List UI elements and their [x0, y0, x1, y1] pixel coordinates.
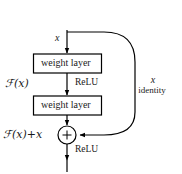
residual-block-figure: x weight layer weight layer ℱ(x) ReLU ℱ(…	[0, 0, 182, 174]
function-output-label: ℱ(x)	[5, 78, 29, 89]
input-variable-label: x	[55, 33, 59, 43]
weight-layer-2-label: weight layer	[41, 100, 91, 110]
shortcut-variable-label: x	[132, 75, 174, 85]
residual-sum-label: ℱ(x)+x	[3, 129, 42, 140]
shortcut-identity-label: identity	[126, 86, 178, 95]
relu-mid-label: ReLU	[75, 78, 98, 88]
relu-output-label: ReLU	[75, 145, 98, 155]
weight-layer-1-label: weight layer	[41, 58, 91, 68]
